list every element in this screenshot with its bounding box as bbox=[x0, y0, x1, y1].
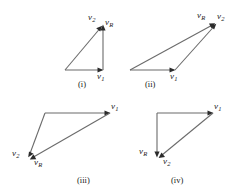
caption-panel-i: (i) bbox=[78, 80, 86, 89]
vector-ii-vR-line bbox=[130, 26, 212, 71]
label-ii-v1: v1 bbox=[170, 72, 177, 81]
panel-ii bbox=[130, 23, 216, 72]
label-i-v1: v1 bbox=[97, 72, 104, 81]
panel-iii bbox=[28, 110, 110, 159]
caption-panel-ii: (ii) bbox=[145, 80, 155, 89]
label-ii-vR: vR bbox=[197, 11, 205, 20]
caption-panel-iii: (iii) bbox=[77, 176, 90, 185]
label-iv-v2: v2 bbox=[163, 157, 170, 166]
vector-ii-v2-line bbox=[175, 27, 214, 70]
vector-iii-v2-line bbox=[30, 113, 45, 154]
label-iii-vR: vR bbox=[34, 158, 42, 167]
label-iii-v1: v1 bbox=[111, 102, 118, 111]
label-iii-v2: v2 bbox=[12, 149, 19, 158]
panel-iv bbox=[154, 110, 213, 158]
vector-i-v2-line bbox=[65, 29, 100, 70]
label-ii-v2: v2 bbox=[217, 12, 224, 21]
vector-iii-vR-line bbox=[34, 113, 111, 157]
caption-panel-iv: (iv) bbox=[171, 176, 183, 185]
panel-i bbox=[65, 25, 106, 73]
label-iv-v1: v1 bbox=[214, 102, 221, 111]
vector-diagram-figure: v2 vR v1 vR v2 v1 v1 v2 vR v1 vR v2 (i) … bbox=[0, 0, 243, 192]
label-iv-vR: vR bbox=[139, 147, 147, 156]
vector-iv-vR-arrowhead bbox=[154, 152, 159, 158]
vector-iv-v2-line bbox=[162, 113, 213, 155]
label-i-v2: v2 bbox=[88, 13, 95, 22]
label-i-vR: vR bbox=[105, 18, 113, 27]
